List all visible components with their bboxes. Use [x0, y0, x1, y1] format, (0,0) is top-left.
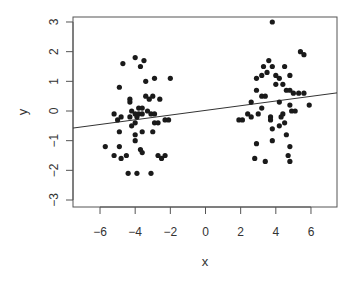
x-tick-label: −4 [128, 225, 142, 239]
y-axis: −3−2−10123 [47, 18, 73, 207]
data-point [270, 64, 275, 69]
data-point [282, 64, 287, 69]
scatter-plot: −3−2−10123 −6−4−20246 x y [0, 0, 352, 282]
data-point [134, 171, 139, 176]
y-tick-label: −2 [47, 163, 61, 177]
data-point [140, 150, 145, 155]
data-point [117, 144, 122, 149]
data-point [263, 159, 268, 164]
data-point [133, 132, 138, 137]
data-point [287, 144, 292, 149]
data-point [261, 64, 266, 69]
data-point [284, 132, 289, 137]
data-point [270, 19, 275, 24]
data-point [140, 111, 145, 116]
data-point [273, 82, 278, 87]
data-point [152, 76, 157, 81]
data-point [150, 129, 155, 134]
data-point [150, 94, 155, 99]
data-point [277, 99, 282, 104]
data-point [134, 114, 139, 119]
data-point [249, 99, 254, 104]
data-point [141, 58, 146, 63]
x-tick-label: 4 [272, 225, 279, 239]
data-point [124, 153, 129, 158]
data-point [291, 91, 296, 96]
data-point [133, 55, 138, 60]
data-point [166, 117, 171, 122]
data-point [301, 52, 306, 57]
data-point [254, 141, 259, 146]
data-point [120, 61, 125, 66]
x-tick-label: −6 [93, 225, 107, 239]
data-point [252, 156, 257, 161]
data-point [140, 105, 145, 110]
data-point [129, 123, 134, 128]
data-point [293, 108, 298, 113]
data-point [119, 156, 124, 161]
x-axis: −6−4−20246 [93, 207, 314, 239]
data-point [280, 82, 285, 87]
data-point [103, 144, 108, 149]
data-point [270, 126, 275, 131]
y-axis-title: y [15, 108, 30, 115]
data-point [296, 91, 301, 96]
y-tick-label: 2 [47, 48, 61, 55]
y-tick-label: −1 [47, 134, 61, 148]
data-point [127, 114, 132, 119]
data-point [307, 102, 312, 107]
data-point [140, 129, 145, 134]
data-point [277, 123, 282, 128]
data-point [287, 73, 292, 78]
x-tick-label: −2 [163, 225, 177, 239]
data-point [240, 117, 245, 122]
data-point [138, 64, 143, 69]
data-point [115, 117, 120, 122]
x-tick-label: 0 [202, 225, 209, 239]
data-point [301, 91, 306, 96]
data-point [266, 58, 271, 63]
data-point [256, 111, 261, 116]
data-point [148, 171, 153, 176]
x-axis-title: x [202, 254, 209, 269]
y-tick-label: −3 [47, 193, 61, 207]
data-point [168, 76, 173, 81]
y-tick-label: 1 [47, 78, 61, 85]
data-point [143, 79, 148, 84]
x-tick-label: 2 [237, 225, 244, 239]
data-point [287, 159, 292, 164]
x-tick-label: 6 [308, 225, 315, 239]
data-point [126, 171, 131, 176]
data-point [259, 105, 264, 110]
data-point [133, 138, 138, 143]
data-point [111, 111, 116, 116]
y-tick-label: 3 [47, 18, 61, 25]
y-tick-label: 0 [47, 107, 61, 114]
data-point [287, 102, 292, 107]
data-points [103, 19, 312, 176]
data-point [127, 99, 132, 104]
data-point [270, 138, 275, 143]
data-point [282, 120, 287, 125]
data-point [264, 70, 269, 75]
data-point [117, 129, 122, 134]
data-point [111, 153, 116, 158]
data-point [157, 97, 162, 102]
data-point [254, 76, 259, 81]
data-point [117, 85, 122, 90]
data-point [249, 114, 254, 119]
data-point [286, 153, 291, 158]
data-point [278, 114, 283, 119]
data-point [277, 76, 282, 81]
data-point [259, 73, 264, 78]
data-point [152, 111, 157, 116]
data-point [155, 120, 160, 125]
data-point [254, 88, 259, 93]
data-point [268, 117, 273, 122]
data-point [162, 153, 167, 158]
data-point [263, 94, 268, 99]
